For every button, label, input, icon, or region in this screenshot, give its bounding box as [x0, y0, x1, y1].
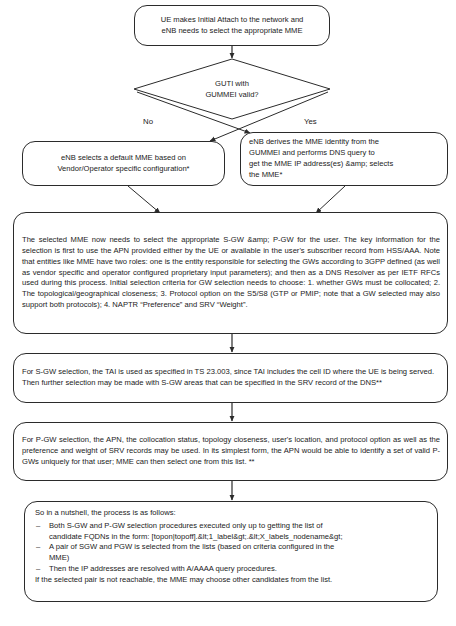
node-gw-selection: The selected MME now needs to select the…	[13, 212, 448, 334]
node-derive-mme: eNB derives the MME identity from the GU…	[240, 132, 448, 186]
summary-bullet-list: – Both S-GW and P-GW selection procedure…	[35, 521, 427, 575]
node-derive-mme-line-3: get the MME IP address(es) &amp; selects	[249, 159, 439, 170]
node-default-mme: eNB selects a default MME based on Vendo…	[22, 141, 225, 186]
decision-label: GUTI with GUMMEI valid?	[134, 59, 330, 119]
node-derive-mme-line-1: eNB derives the MME identity from the	[249, 137, 439, 148]
summary-trailing-line: If the selected pair is not reachable, t…	[35, 575, 427, 586]
node-pgw-selection: For P-GW selection, the APN, the colloca…	[13, 422, 448, 481]
node-start-line-2: eNB needs to select the appropriate MME	[135, 26, 329, 37]
node-sgw-selection-text: For S-GW selection, the TAI is used as s…	[22, 367, 440, 389]
decision-line-1: GUTI with	[134, 78, 330, 89]
node-decision-guti: GUTI with GUMMEI valid?	[134, 59, 330, 119]
node-summary: So in a nutshell, the process is as foll…	[24, 501, 438, 602]
branch-label-yes: Yes	[304, 117, 317, 126]
bullet-dash-3: –	[36, 564, 40, 575]
node-default-mme-line-1: eNB selects a default MME based on	[32, 153, 215, 164]
summary-bullet-1-line-2: candidate FQDNs in the form: [topon|topo…	[49, 532, 343, 541]
node-default-mme-line-2: Vendor/Operator specific configuration*	[32, 164, 215, 175]
summary-bullet-1: – Both S-GW and P-GW selection procedure…	[35, 521, 427, 543]
node-pgw-selection-text: For P-GW selection, the APN, the colloca…	[22, 435, 440, 467]
branch-label-no: No	[143, 117, 153, 126]
decision-line-2: GUMMEI valid?	[134, 89, 330, 100]
node-derive-mme-line-4: the MME*	[249, 170, 439, 181]
node-gw-selection-text: The selected MME now needs to select the…	[22, 235, 440, 310]
flowchart-canvas: UE makes Initial Attach to the network a…	[0, 0, 456, 626]
summary-bullet-2: – A pair of SGW and PGW is selected from…	[35, 542, 427, 564]
summary-bullet-2-line-1: A pair of SGW and PGW is selected from t…	[49, 542, 334, 551]
node-sgw-selection: For S-GW selection, the TAI is used as s…	[13, 353, 448, 403]
summary-bullet-2-line-2: MME)	[49, 553, 69, 562]
node-derive-mme-line-2: GUMMEI and performs DNS query to	[249, 148, 439, 159]
bullet-dash-2: –	[36, 542, 40, 553]
summary-bullet-3: – Then the IP addresses are resolved wit…	[35, 564, 427, 575]
node-start-line-1: UE makes Initial Attach to the network a…	[135, 15, 329, 26]
summary-bullet-1-line-1: Both S-GW and P-GW selection procedures …	[49, 521, 323, 530]
summary-intro: So in a nutshell, the process is as foll…	[35, 508, 427, 519]
summary-bullet-3-line-1: Then the IP addresses are resolved with …	[49, 564, 277, 573]
node-start: UE makes Initial Attach to the network a…	[134, 5, 330, 46]
bullet-dash-1: –	[36, 521, 40, 532]
